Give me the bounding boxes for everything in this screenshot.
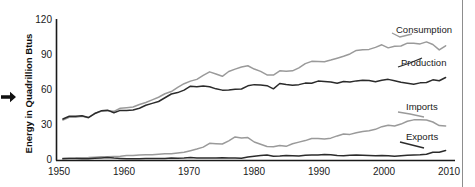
- figure-right-border: [462, 0, 463, 187]
- series-paths: [63, 42, 446, 159]
- energy-chart-figure: Energy in Quadrillion Btus 120 90 60 30 …: [0, 0, 475, 187]
- axis-lines: [56, 19, 455, 161]
- plot-area: [0, 0, 475, 187]
- label-leader-lines: [392, 33, 424, 148]
